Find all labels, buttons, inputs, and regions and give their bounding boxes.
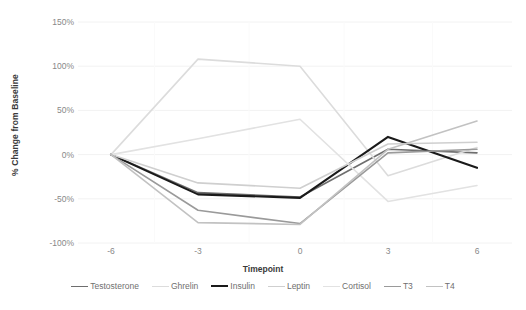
chart-legend: TestosteroneGhrelinInsulinLeptinCortisol… [0,281,526,291]
legend-line-swatch [71,286,88,287]
legend-line-swatch [426,286,443,287]
legend-item-t4[interactable]: T4 [426,281,455,291]
legend-line-swatch [152,286,169,287]
legend-label: Insulin [230,281,255,291]
legend-item-cortisol[interactable]: Cortisol [323,281,371,291]
legend-item-insulin[interactable]: Insulin [211,281,255,291]
gridlines [78,22,512,243]
series-line-ghrelin [111,59,477,176]
legend-label: Testosterone [90,281,139,291]
legend-label: Cortisol [342,281,371,291]
legend-item-ghrelin[interactable]: Ghrelin [152,281,198,291]
legend-item-testosterone[interactable]: Testosterone [71,281,139,291]
series-line-insulin [111,137,477,198]
legend-label: T3 [403,281,413,291]
series-lines [111,59,477,224]
legend-label: T4 [445,281,455,291]
legend-item-leptin[interactable]: Leptin [268,281,310,291]
legend-line-swatch [211,285,228,287]
x-axis-tick-label: -3 [194,246,202,256]
legend-line-swatch [268,286,285,287]
series-line-t3 [111,149,477,223]
x-axis-tick-label: 0 [298,246,303,256]
legend-label: Ghrelin [171,281,198,291]
x-axis-tick-label: 6 [475,246,480,256]
legend-line-swatch [323,286,340,287]
legend-line-swatch [384,286,401,287]
x-axis-tick-label: -6 [107,246,115,256]
legend-item-t3[interactable]: T3 [384,281,413,291]
line-chart: % Change from Baseline 150%100%50%0%-50%… [0,0,526,310]
x-axis-title: Timepoint [0,264,526,274]
x-axis-tick-label: 3 [386,246,391,256]
legend-label: Leptin [287,281,310,291]
